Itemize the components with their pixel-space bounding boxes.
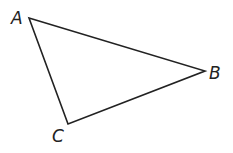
- vertex-label-b: B: [209, 63, 221, 83]
- triangle-abc: [29, 18, 205, 124]
- vertex-label-a: A: [10, 8, 23, 28]
- triangle-diagram: A B C: [0, 0, 233, 153]
- vertex-label-c: C: [52, 126, 64, 146]
